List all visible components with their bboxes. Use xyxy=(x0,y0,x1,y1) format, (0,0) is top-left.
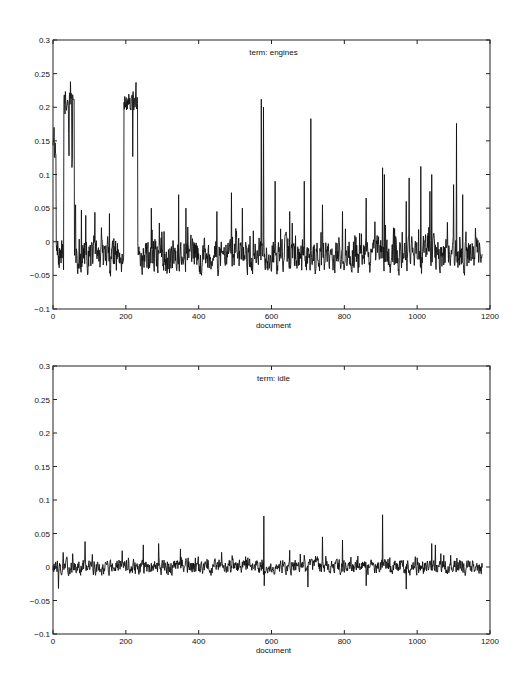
y-tick-label: 0.05 xyxy=(34,204,50,213)
plot-idle: −0.1−0.0500.050.10.150.20.250.3 02004006… xyxy=(30,362,500,655)
x-tick-label: 400 xyxy=(192,312,206,321)
y-tick-label: 0.2 xyxy=(39,103,51,112)
x-tick-label: 1200 xyxy=(481,312,499,321)
plot-title: term: engines xyxy=(249,48,297,57)
y-tick-label: 0.1 xyxy=(39,171,51,180)
figure: −0.1−0.0500.050.10.150.20.250.3 02004006… xyxy=(0,0,528,684)
plot-frame xyxy=(53,366,490,634)
x-axis-label: document xyxy=(256,646,292,655)
x-axis-tick-labels: 020040060080010001200 xyxy=(51,637,500,646)
y-tick-label: 0 xyxy=(46,238,51,247)
y-tick-label: −0.1 xyxy=(34,305,50,314)
x-tick-label: 600 xyxy=(265,312,279,321)
x-tick-label: 0 xyxy=(51,637,56,646)
figure-canvas: −0.1−0.0500.050.10.150.20.250.3 02004006… xyxy=(0,0,528,684)
y-tick-label: 0.1 xyxy=(39,496,51,505)
y-tick-label: −0.05 xyxy=(30,597,51,606)
y-axis-tick-labels: −0.1−0.0500.050.10.150.20.250.3 xyxy=(30,36,51,314)
y-tick-label: −0.05 xyxy=(30,271,51,280)
plot-engines: −0.1−0.0500.050.10.150.20.250.3 02004006… xyxy=(30,36,500,330)
y-tick-label: 0.05 xyxy=(34,530,50,539)
x-tick-label: 1000 xyxy=(408,312,426,321)
series-line xyxy=(53,515,482,589)
x-axis-tick-labels: 020040060080010001200 xyxy=(51,312,500,321)
x-tick-label: 600 xyxy=(265,637,279,646)
x-tick-label: 200 xyxy=(119,637,133,646)
y-tick-label: 0 xyxy=(46,563,51,572)
axis-ticks xyxy=(53,366,490,634)
y-tick-label: 0.25 xyxy=(34,70,50,79)
x-tick-label: 400 xyxy=(192,637,206,646)
x-tick-label: 1000 xyxy=(408,637,426,646)
x-axis-label: document xyxy=(256,321,292,330)
y-tick-label: 0.15 xyxy=(34,463,50,472)
x-tick-label: 200 xyxy=(119,312,133,321)
y-axis-tick-labels: −0.1−0.0500.050.10.150.20.250.3 xyxy=(30,362,51,639)
x-tick-label: 800 xyxy=(338,312,352,321)
y-tick-label: 0.3 xyxy=(39,36,51,45)
y-tick-label: 0.2 xyxy=(39,429,51,438)
y-tick-label: 0.3 xyxy=(39,362,51,371)
y-tick-label: −0.1 xyxy=(34,630,50,639)
x-tick-label: 800 xyxy=(338,637,352,646)
x-tick-label: 1200 xyxy=(481,637,499,646)
y-tick-label: 0.15 xyxy=(34,137,50,146)
plot-title: term: idle xyxy=(257,374,290,383)
idle-series-line xyxy=(53,515,482,589)
x-tick-label: 0 xyxy=(51,312,56,321)
series-line xyxy=(53,82,482,277)
engines-series-line xyxy=(53,82,482,277)
y-tick-label: 0.25 xyxy=(34,396,50,405)
